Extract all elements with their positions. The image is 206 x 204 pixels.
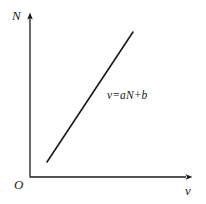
origin-label: O bbox=[14, 178, 23, 191]
equation-annotation: v=aN+b bbox=[107, 90, 147, 102]
x-axis-label: v bbox=[185, 184, 191, 197]
y-axis-label: N bbox=[12, 9, 21, 22]
plot-canvas bbox=[0, 0, 206, 204]
x-axis-arrowhead-icon bbox=[186, 174, 193, 180]
figure-root: N v O v=aN+b bbox=[0, 0, 206, 204]
